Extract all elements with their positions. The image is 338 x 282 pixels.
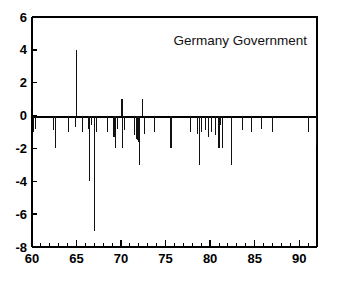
y-tick-label: -2 <box>15 141 27 156</box>
y-tick-label: 4 <box>20 42 28 57</box>
y-tick-label: -6 <box>15 207 27 222</box>
impulse-chart: -8-6-4-20246 60657075808590 Germany Gove… <box>0 0 338 282</box>
x-tick-label: 60 <box>25 251 39 266</box>
x-tick-label: 80 <box>203 251 217 266</box>
x-axis-tick-labels: 60657075808590 <box>25 251 307 266</box>
x-tick-label: 75 <box>158 251 172 266</box>
y-tick-label: 6 <box>20 10 27 25</box>
y-axis-ticks <box>32 17 37 247</box>
x-axis-major-ticks <box>32 240 299 247</box>
y-tick-label: 2 <box>20 75 27 90</box>
x-tick-label: 90 <box>292 251 306 266</box>
x-tick-label: 85 <box>247 251 261 266</box>
chart-title: Germany Government <box>173 33 307 48</box>
plot-frame <box>32 17 317 247</box>
y-tick-label: 0 <box>20 108 27 123</box>
y-axis-tick-labels: -8-6-4-20246 <box>15 10 27 255</box>
y-tick-label: -4 <box>15 174 27 189</box>
data-spikes <box>34 50 316 231</box>
chart-figure: -8-6-4-20246 60657075808590 Germany Gove… <box>0 0 338 282</box>
x-tick-label: 70 <box>114 251 128 266</box>
x-tick-label: 65 <box>69 251 83 266</box>
